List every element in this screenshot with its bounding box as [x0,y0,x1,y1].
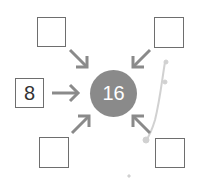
arrow-bottom-left-icon [72,116,89,133]
box-left: 8 [15,78,44,108]
box-bottom-left[interactable] [39,137,69,168]
arrow-bottom-right-icon [133,116,150,133]
arrow-left-icon [52,85,78,101]
arrow-top-right-icon [133,50,150,67]
arrow-top-left-icon [70,50,87,67]
center-value: 16 [102,82,124,105]
box-top-right[interactable] [154,17,184,48]
center-number-circle: 16 [90,70,137,117]
box-bottom-right[interactable] [155,138,185,168]
factor-diagram: 8 16 [0,0,203,188]
box-top-left[interactable] [37,17,66,47]
